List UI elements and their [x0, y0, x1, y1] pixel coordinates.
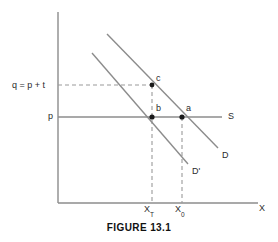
demand-shifted-curve-label: D'	[192, 167, 200, 176]
figure-container: q = p + t p a b c S D D' XT X0 X FIGURE …	[0, 0, 278, 242]
figure-caption: FIGURE 13.1	[0, 222, 278, 233]
tax-price-label: q = p + t	[12, 81, 45, 90]
x-zero-tick-label: X0	[175, 205, 185, 216]
point-a-marker	[179, 114, 184, 119]
producer-price-label: p	[48, 112, 53, 121]
point-c-label: c	[156, 74, 161, 83]
point-b-marker	[149, 114, 154, 119]
x-axis-label: X	[259, 204, 265, 213]
supply-curve-label: S	[228, 112, 234, 121]
point-c-marker	[150, 83, 155, 88]
demand-curve	[107, 34, 218, 148]
demand-curve-label: D	[222, 151, 229, 160]
economics-diagram	[0, 0, 278, 242]
x-tax-subscript: T	[150, 211, 154, 218]
x-tax-tick-label: XT	[144, 205, 154, 216]
point-a-label: a	[186, 104, 191, 113]
point-b-label: b	[156, 104, 161, 113]
x-zero-subscript: 0	[181, 211, 185, 218]
demand-shifted-curve	[92, 53, 188, 164]
